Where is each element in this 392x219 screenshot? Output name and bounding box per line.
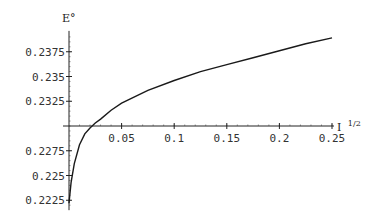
chart: 0.23750.2350.23250.22750.2250.2225 0.050… (0, 0, 392, 219)
x-tick-label: 0.2 (269, 132, 289, 145)
x-tick-label: 0.05 (108, 132, 135, 145)
y-axis: 0.23750.2350.23250.22750.2250.2225 (25, 31, 72, 210)
x-tick-label: 0.15 (214, 132, 241, 145)
x-tick-label: 0.1 (164, 132, 184, 145)
x-axis-title-base: I (337, 121, 341, 134)
y-tick-label: 0.235 (32, 71, 65, 84)
y-tick-label: 0.2375 (25, 46, 65, 59)
x-axis-title: I 1/2 (337, 119, 361, 134)
x-axis: 0.050.10.150.20.25 (63, 123, 345, 145)
data-curve (69, 38, 332, 203)
y-tick-label: 0.2325 (25, 95, 65, 108)
y-tick-label: 0.2275 (25, 145, 65, 158)
y-tick-label: 0.2225 (25, 194, 65, 207)
y-axis-title: E° (62, 12, 76, 25)
x-axis-title-sup: 1/2 (348, 119, 361, 128)
y-tick-label: 0.225 (32, 170, 65, 183)
